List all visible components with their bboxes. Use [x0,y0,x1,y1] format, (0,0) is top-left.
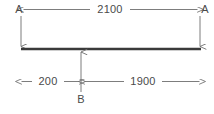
node-label-a-left: A [14,3,24,15]
dimension-label-right-segment: 1900 [124,75,162,87]
beam-diagram-canvas: A --> --> --> [0,0,214,114]
beam-diagram: A --> --> --> A A B 2100 200 1900 [0,0,214,114]
node-label-a-right: A [200,3,210,15]
node-label-b: B [76,93,86,105]
dimension-label-left-segment: 200 [32,75,64,87]
dimension-label-overall-span: 2100 [90,3,130,15]
